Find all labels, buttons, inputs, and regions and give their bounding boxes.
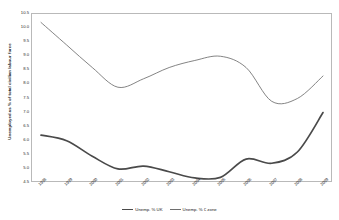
legend-color-swatch <box>170 209 181 210</box>
x-axis-tick-label: 2005 <box>217 177 227 187</box>
y-axis-tick-label: 7.0 <box>13 109 29 113</box>
y-axis-tick-label: 8.0 <box>13 81 29 85</box>
y-axis-tick-label: 10.0 <box>13 25 29 29</box>
y-axis-tick-label: 6.5 <box>13 124 29 128</box>
legend-item[interactable]: Unemp. % UK <box>122 207 162 212</box>
y-axis-title: Unemployed as % of total civilian labour… <box>7 17 12 167</box>
x-axis-tick-label: 2008 <box>294 177 304 187</box>
legend-item[interactable]: Unemp. % € zone <box>170 207 217 212</box>
legend-label: Unemp. % UK <box>135 207 162 212</box>
y-axis-tick-label: 9.0 <box>13 53 29 57</box>
y-axis-tick-label: 7.5 <box>13 95 29 99</box>
y-axis-tick-label: 10.5 <box>13 11 29 15</box>
y-axis-tick-label: 8.5 <box>13 67 29 71</box>
series-line <box>41 22 323 103</box>
plot-area <box>31 13 332 182</box>
y-axis-tick-label: 9.5 <box>13 39 29 43</box>
chart-legend: Unemp. % UKUnemp. % € zone <box>0 207 339 212</box>
plot-lines <box>32 14 333 183</box>
line-chart: Unemployed as % of total civilian labour… <box>0 0 339 220</box>
x-axis-tick-labels: 1998199920002001200220032004200520062007… <box>0 183 339 207</box>
series-line <box>41 113 323 180</box>
legend-label: Unemp. % € zone <box>183 207 217 212</box>
legend-color-swatch <box>122 209 133 211</box>
y-axis-tick-label: 5.0 <box>13 166 29 170</box>
y-axis-tick-label: 6.0 <box>13 138 29 142</box>
y-axis-tick-label: 5.5 <box>13 152 29 156</box>
